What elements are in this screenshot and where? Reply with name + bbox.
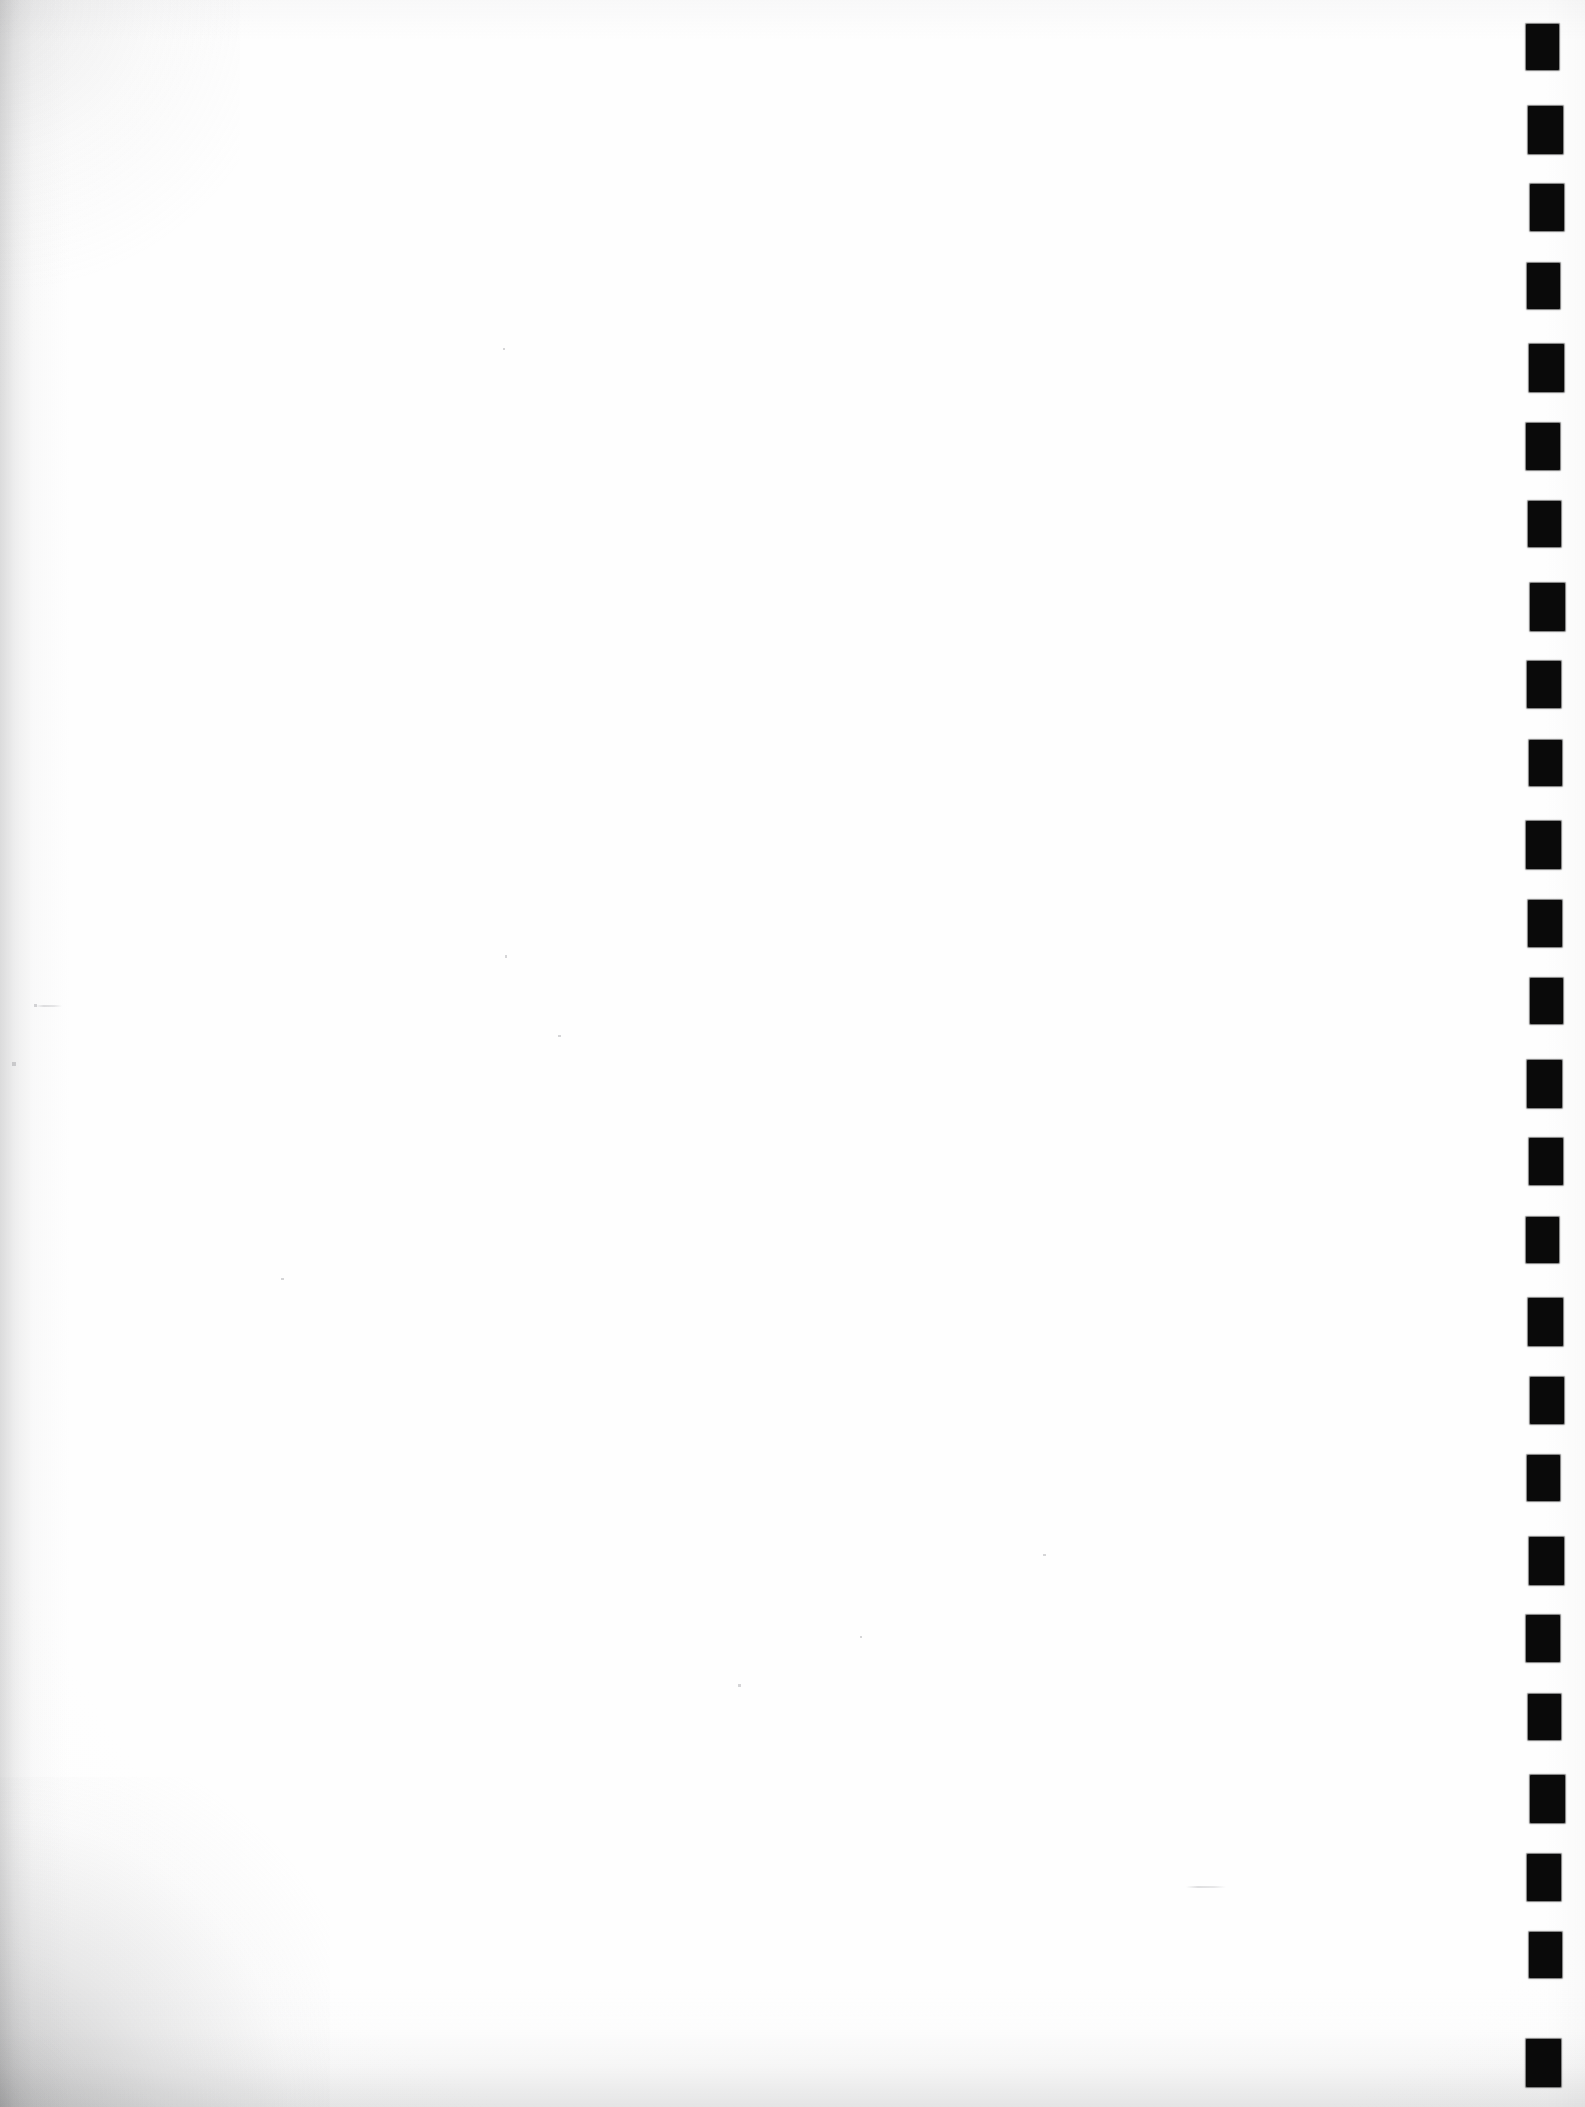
paper-substrate xyxy=(0,0,1585,2107)
scanned-page xyxy=(0,0,1585,2107)
